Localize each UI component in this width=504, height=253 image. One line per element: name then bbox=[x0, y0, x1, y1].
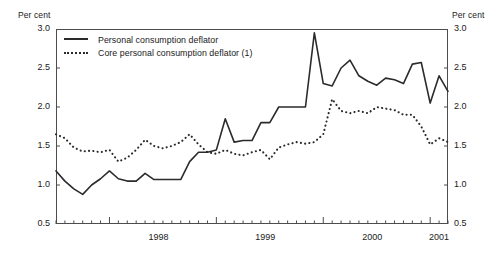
y-tick-label-left-1.5: 1.5 bbox=[24, 140, 50, 150]
y-tick-label-right-0.5: 0.5 bbox=[454, 218, 480, 228]
legend-dotted-line-icon bbox=[63, 47, 89, 58]
y-axis-unit-left: Per cent bbox=[18, 10, 50, 20]
y-tick-label-right-3.0: 3.0 bbox=[454, 23, 480, 33]
legend-item-1: Core personal consumption deflator (1) bbox=[63, 46, 313, 59]
y-tick-label-left-3.0: 3.0 bbox=[24, 23, 50, 33]
y-tick-label-right-2.0: 2.0 bbox=[454, 101, 480, 111]
y-tick-label-left-1.0: 1.0 bbox=[24, 179, 50, 189]
axis-tick-marks bbox=[56, 68, 448, 224]
y-axis-unit-right: Per cent bbox=[452, 10, 484, 20]
legend-solid-line-icon bbox=[63, 34, 89, 45]
chart-legend: Personal consumption deflatorCore person… bbox=[63, 33, 313, 59]
y-tick-label-right-1.5: 1.5 bbox=[454, 140, 480, 150]
y-tick-label-right-2.5: 2.5 bbox=[454, 62, 480, 72]
legend-item-label: Core personal consumption deflator (1) bbox=[98, 48, 252, 58]
legend-item-label: Personal consumption deflator bbox=[98, 35, 218, 45]
x-tick-label-1998: 1998 bbox=[138, 232, 178, 242]
x-tick-label-2001: 2001 bbox=[419, 232, 459, 242]
series-line-1 bbox=[56, 99, 448, 161]
y-tick-label-left-2.0: 2.0 bbox=[24, 101, 50, 111]
x-tick-label-1999: 1999 bbox=[245, 232, 285, 242]
y-tick-label-left-2.5: 2.5 bbox=[24, 62, 50, 72]
y-tick-label-left-0.5: 0.5 bbox=[24, 218, 50, 228]
y-tick-label-right-1.0: 1.0 bbox=[454, 179, 480, 189]
chart-figure: Per cent Per cent 0.50.51.01.01.51.52.02… bbox=[0, 0, 504, 253]
legend-item-0: Personal consumption deflator bbox=[63, 33, 313, 46]
x-tick-label-2000: 2000 bbox=[352, 232, 392, 242]
